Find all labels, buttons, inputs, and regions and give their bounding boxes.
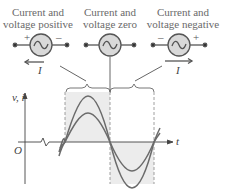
- y-axis-label: v, i: [12, 91, 25, 103]
- terminal-dot: [13, 43, 17, 47]
- ac-source-zero: [84, 34, 136, 56]
- diagram: + – I – + I: [0, 0, 225, 189]
- origin-label: O: [14, 144, 22, 156]
- terminal-dot: [65, 43, 69, 47]
- current-label: I: [175, 64, 181, 76]
- plus-sign: +: [24, 31, 30, 43]
- minus-sign: –: [157, 31, 164, 43]
- terminal-dot: [151, 43, 155, 47]
- current-label: I: [37, 64, 43, 76]
- terminal-dot: [132, 43, 136, 47]
- terminal-dot: [84, 43, 88, 47]
- x-axis-label: t: [176, 135, 180, 147]
- plus-sign: +: [193, 31, 199, 43]
- terminal-dot: [203, 43, 207, 47]
- minus-sign: –: [55, 31, 62, 43]
